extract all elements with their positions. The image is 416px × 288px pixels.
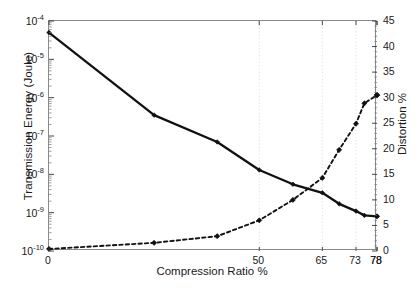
x-axis-title: Compression Ratio %: [48, 265, 376, 277]
x-tick-label: 0: [45, 254, 51, 266]
data-point-marker: [353, 121, 358, 126]
data-point-marker: [152, 240, 157, 245]
y-tick-label-right: 5: [383, 218, 389, 230]
plot-canvas: [49, 21, 377, 251]
data-point-marker: [375, 214, 380, 219]
y-tick-label-left: 10-8: [0, 167, 44, 181]
x-tick-label: 78: [370, 254, 382, 266]
y-tick-label-right: 20: [383, 142, 395, 154]
y-tick-label-right: 35: [383, 65, 395, 77]
tick-marks: [49, 21, 377, 251]
y-tick-label-right: 15: [383, 167, 395, 179]
data-point-marker: [215, 234, 220, 239]
y-tick-label-right: 30: [383, 91, 395, 103]
y-tick-label-left: 10-10: [0, 243, 44, 257]
y-tick-label-left: 10-9: [0, 205, 44, 219]
x-tick-label: 50: [252, 254, 264, 266]
y-axis-right-title: Distortion %: [396, 34, 408, 214]
series-1: [47, 30, 380, 218]
y-tick-label-left: 10-7: [0, 128, 44, 142]
y-tick-label-right: 40: [383, 40, 395, 52]
y-tick-label-left: 10-6: [0, 90, 44, 104]
y-tick-label-right: 10: [383, 193, 395, 205]
plot-area: [48, 20, 376, 250]
data-point-marker: [257, 218, 262, 223]
y-tick-label-right: 45: [383, 14, 395, 26]
series-line: [49, 33, 377, 217]
x-tick-label: 73: [349, 254, 361, 266]
chart-figure: Transmission Energy (Joule) Distortion %…: [0, 0, 416, 288]
series-2: [46, 93, 379, 252]
y-tick-label-right: 0: [383, 244, 389, 256]
y-tick-label-left: 10-5: [0, 52, 44, 66]
y-tick-label-right: 25: [383, 116, 395, 128]
y-tick-label-left: 10-4: [0, 13, 44, 27]
grid-lines: [259, 21, 377, 251]
x-tick-label: 65: [315, 254, 327, 266]
series-line: [49, 95, 377, 249]
